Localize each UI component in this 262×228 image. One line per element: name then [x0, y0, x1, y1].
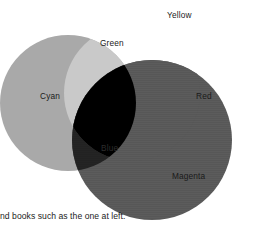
venn-label-blue: Blue — [101, 144, 118, 152]
figure-caption: nd books such as the one at left. — [0, 211, 125, 221]
venn-label-red: Red — [196, 92, 212, 100]
venn-diagram-figure: Yellow Green Cyan Red Blue Magenta nd bo… — [0, 0, 262, 228]
venn-label-magenta: Magenta — [172, 172, 205, 180]
venn-label-yellow: Yellow — [167, 11, 192, 19]
venn-label-green: Green — [100, 39, 124, 47]
venn-label-cyan: Cyan — [40, 92, 60, 100]
venn-diagram-graphic — [0, 0, 262, 228]
